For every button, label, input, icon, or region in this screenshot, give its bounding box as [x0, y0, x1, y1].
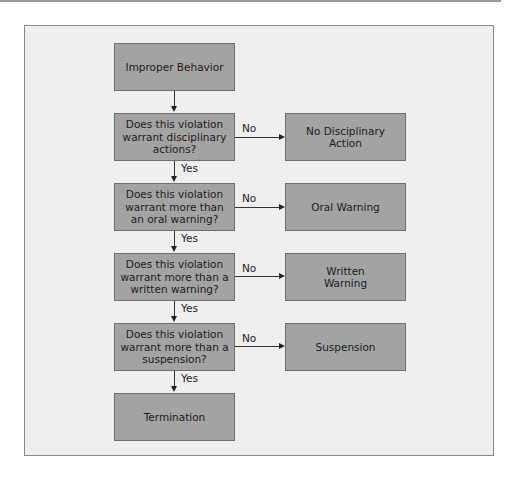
decision-box-4: Does this violation warrant more than a … — [114, 323, 235, 371]
decision-box-1: Does this violation warrant disciplinary… — [114, 113, 235, 161]
start-box-improper-behavior: Improper Behavior — [114, 43, 235, 91]
start-label: Improper Behavior — [126, 61, 224, 74]
no-label-2: No — [242, 192, 256, 204]
connector-q2-no — [235, 207, 280, 208]
yes-label-4: Yes — [181, 372, 198, 384]
no-label-4: No — [242, 332, 256, 344]
flowchart-panel — [24, 25, 494, 456]
connector-q3-yes — [174, 301, 175, 317]
connector-q1-no — [235, 137, 280, 138]
outcome-2-label: Oral Warning — [311, 201, 379, 214]
connector-q1-yes — [174, 161, 175, 177]
connector-q4-no — [235, 346, 280, 347]
arrow-down-icon — [171, 176, 177, 182]
outcome-box-no-disciplinary-action: No Disciplinary Action — [285, 113, 406, 161]
decision-2-question: Does this violation warrant more than an… — [115, 188, 234, 226]
arrow-down-icon — [171, 386, 177, 392]
no-label-1: No — [242, 122, 256, 134]
top-rule — [0, 0, 501, 2]
decision-4-question: Does this violation warrant more than a … — [115, 328, 234, 366]
no-label-3: No — [242, 262, 256, 274]
arrow-down-icon — [171, 246, 177, 252]
yes-label-2: Yes — [181, 232, 198, 244]
decision-3-question: Does this violation warrant more than a … — [115, 258, 234, 296]
outcome-4-label: Suspension — [315, 341, 375, 354]
connector-start-to-q1 — [174, 91, 175, 107]
connector-q4-yes — [174, 371, 175, 387]
decision-box-3: Does this violation warrant more than a … — [114, 253, 235, 301]
decision-1-question: Does this violation warrant disciplinary… — [115, 118, 234, 156]
arrow-down-icon — [171, 106, 177, 112]
outcome-1-label: No Disciplinary Action — [286, 125, 405, 150]
outcome-box-suspension: Suspension — [285, 323, 406, 371]
outcome-box-written-warning: Written Warning — [285, 253, 406, 301]
end-box-termination: Termination — [114, 393, 235, 441]
connector-q3-no — [235, 276, 280, 277]
outcome-3-label: Written Warning — [286, 265, 405, 290]
yes-label-3: Yes — [181, 302, 198, 314]
end-label: Termination — [144, 411, 206, 424]
outcome-box-oral-warning: Oral Warning — [285, 183, 406, 231]
arrow-down-icon — [171, 316, 177, 322]
connector-q2-yes — [174, 231, 175, 247]
decision-box-2: Does this violation warrant more than an… — [114, 183, 235, 231]
yes-label-1: Yes — [181, 162, 198, 174]
